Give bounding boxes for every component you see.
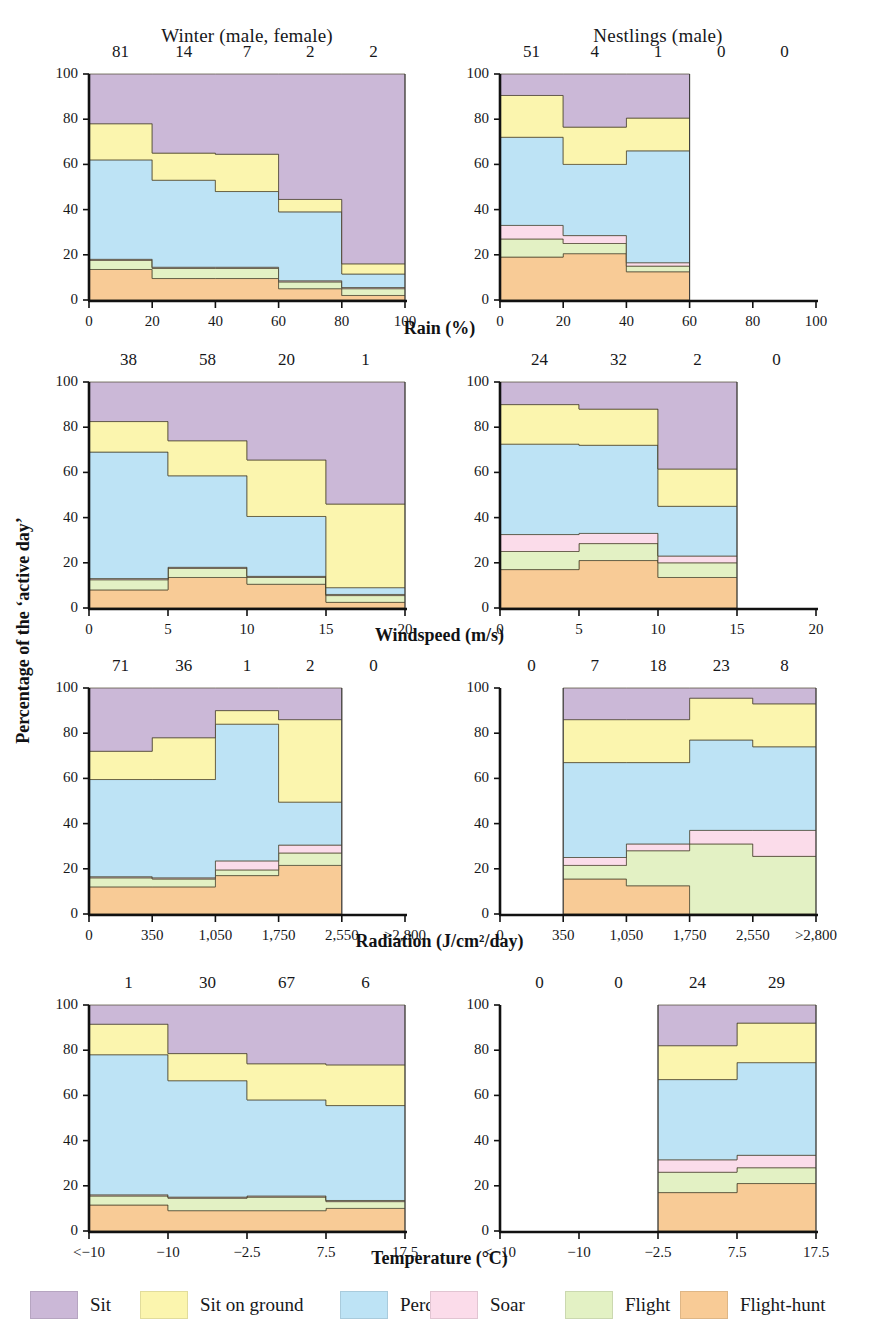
y-tick-label: 40 <box>43 201 78 218</box>
legend-swatch-icon <box>565 1291 613 1319</box>
y-tick-label: 20 <box>43 246 78 263</box>
sample-count-label: 24 <box>500 350 580 370</box>
panel-windspeed-winter: 020406080100051015203858201 <box>43 368 427 650</box>
legend-label: Soar <box>490 1294 525 1316</box>
sample-count-label: 6 <box>326 973 406 993</box>
legend-label: Sit on ground <box>200 1294 303 1316</box>
y-tick-label: 40 <box>43 815 78 832</box>
sample-count-label: 38 <box>89 350 169 370</box>
y-tick-label: 100 <box>43 65 78 82</box>
y-tick-label: 100 <box>43 373 78 390</box>
y-tick-label: 80 <box>454 1041 489 1058</box>
y-tick-label: 60 <box>454 463 489 480</box>
sample-count-label: 20 <box>247 350 327 370</box>
sample-count-label: 30 <box>168 973 248 993</box>
plot-windspeed-nestlings <box>454 368 838 650</box>
plot-windspeed-winter <box>43 368 427 650</box>
x-axis-title-row-2: Windspeed (m/s) <box>0 625 879 646</box>
x-axis-title-row-3: Radiation (J/cm²/day) <box>0 931 879 952</box>
y-tick-label: 40 <box>43 1132 78 1149</box>
sample-count-label: 0 <box>579 973 659 993</box>
legend-swatch-icon <box>30 1291 78 1319</box>
panel-windspeed-nestlings: 02040608010005101520243220 <box>454 368 838 650</box>
y-tick-label: 40 <box>454 201 489 218</box>
y-tick-label: 80 <box>43 1041 78 1058</box>
y-tick-label: 80 <box>454 110 489 127</box>
y-tick-label: 20 <box>43 860 78 877</box>
y-tick-label: 40 <box>454 509 489 526</box>
legend-item-perch: Perch <box>340 1288 443 1322</box>
sample-count-label: 1 <box>89 973 169 993</box>
panel-radiation-winter: 02040608010003501,0501,7502,550>2,800713… <box>43 674 427 956</box>
y-tick-label: 0 <box>454 291 489 308</box>
y-tick-label: 40 <box>454 1132 489 1149</box>
y-tick-label: 0 <box>454 599 489 616</box>
sample-count-label: 0 <box>744 42 824 62</box>
panel-radiation-nestlings: 02040608010003501,0501,7502,550>2,800071… <box>454 674 838 956</box>
y-tick-label: 20 <box>454 1177 489 1194</box>
sample-count-label: 0 <box>500 973 580 993</box>
y-tick-label: 0 <box>43 1222 78 1239</box>
legend: SitSit on groundPerchSoarFlightFlight-hu… <box>0 1288 879 1328</box>
x-axis-title-row-1: Rain (%) <box>0 318 879 339</box>
sample-count-label: 2 <box>658 350 738 370</box>
y-tick-label: 80 <box>454 418 489 435</box>
sample-count-label: 58 <box>168 350 248 370</box>
plot-radiation-winter <box>43 674 427 956</box>
sample-count-label: 24 <box>658 973 738 993</box>
plot-temperature-winter <box>43 991 427 1273</box>
y-tick-label: 80 <box>454 724 489 741</box>
sample-count-label: 67 <box>247 973 327 993</box>
legend-label: Flight <box>625 1294 670 1316</box>
legend-swatch-icon <box>680 1291 728 1319</box>
y-tick-label: 20 <box>43 1177 78 1194</box>
y-tick-label: 20 <box>454 246 489 263</box>
panel-rain-winter: 0204060801000204060801008114722 <box>43 60 427 342</box>
y-tick-label: 20 <box>454 860 489 877</box>
panel-temperature-winter: 020406080100<−10−10−2.57.517.5130676 <box>43 991 427 1273</box>
y-tick-label: 0 <box>454 1222 489 1239</box>
legend-label: Flight-hunt <box>740 1294 826 1316</box>
plot-rain-winter <box>43 60 427 342</box>
y-tick-label: 60 <box>43 769 78 786</box>
legend-swatch-icon <box>340 1291 388 1319</box>
y-tick-label: 20 <box>43 554 78 571</box>
y-tick-label: 60 <box>454 769 489 786</box>
y-tick-label: 60 <box>43 155 78 172</box>
y-tick-label: 80 <box>43 110 78 127</box>
y-tick-label: 100 <box>43 679 78 696</box>
plot-radiation-nestlings <box>454 674 838 956</box>
y-tick-label: 80 <box>43 418 78 435</box>
y-tick-label: 60 <box>454 155 489 172</box>
y-tick-label: 40 <box>43 509 78 526</box>
y-tick-label: 80 <box>43 724 78 741</box>
y-tick-label: 0 <box>43 905 78 922</box>
y-tick-label: 60 <box>43 1086 78 1103</box>
y-tick-label: 20 <box>454 554 489 571</box>
legend-item-sit-on-ground: Sit on ground <box>140 1288 303 1322</box>
panel-temperature-nestlings: 020406080100<−10−10−2.57.517.5002429 <box>454 991 838 1273</box>
legend-swatch-icon <box>430 1291 478 1319</box>
y-tick-label: 0 <box>43 291 78 308</box>
stacked-area-figure: Winter (male, female) Nestlings (male) P… <box>0 0 879 1338</box>
legend-swatch-icon <box>140 1291 188 1319</box>
legend-item-sit: Sit <box>30 1288 111 1322</box>
y-tick-label: 0 <box>454 905 489 922</box>
y-tick-label: 100 <box>454 679 489 696</box>
legend-item-soar: Soar <box>430 1288 525 1322</box>
legend-item-flight: Flight <box>565 1288 670 1322</box>
x-axis-title-row-4: Temperature (°C) <box>0 1248 879 1269</box>
sample-count-label: 8 <box>744 656 824 676</box>
sample-count-label: 1 <box>326 350 406 370</box>
y-tick-label: 40 <box>454 815 489 832</box>
legend-label: Sit <box>90 1294 111 1316</box>
sample-count-label: 29 <box>737 973 817 993</box>
y-tick-label: 0 <box>43 599 78 616</box>
y-tick-label: 100 <box>454 65 489 82</box>
legend-item-flight-hunt: Flight-hunt <box>680 1288 826 1322</box>
plot-rain-nestlings <box>454 60 838 342</box>
sample-count-label: 0 <box>737 350 817 370</box>
y-tick-label: 60 <box>43 463 78 480</box>
y-tick-label: 60 <box>454 1086 489 1103</box>
y-tick-label: 100 <box>454 373 489 390</box>
